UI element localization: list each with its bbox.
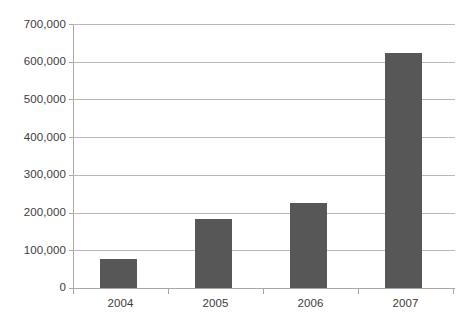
y-axis-tick-label: 300,000	[2, 169, 66, 181]
y-axis-labels: 700,000 600,000 500,000 400,000 300,000 …	[0, 0, 66, 335]
bar-2005	[195, 219, 232, 288]
bar-2007	[385, 53, 422, 288]
x-axis-tick	[168, 289, 169, 294]
y-axis-tick-label: 400,000	[2, 132, 66, 144]
bar-chart: 700,000 600,000 500,000 400,000 300,000 …	[0, 0, 471, 335]
x-axis-line	[73, 288, 455, 289]
gridline	[73, 24, 455, 25]
x-axis-tick	[73, 289, 74, 294]
plot-area	[73, 24, 455, 288]
y-axis-tick-label: 700,000	[2, 19, 66, 31]
x-axis-tick	[263, 289, 264, 294]
y-axis-tick-label: 100,000	[2, 245, 66, 257]
y-axis-tick-label: 600,000	[2, 56, 66, 68]
bar-2006	[290, 203, 327, 288]
x-axis-category-label: 2005	[168, 297, 263, 309]
y-axis-tick-label: 200,000	[2, 207, 66, 219]
bar-2004	[100, 259, 137, 288]
x-axis-category-label: 2006	[263, 297, 358, 309]
x-axis-category-label: 2004	[73, 297, 168, 309]
x-axis-category-label: 2007	[358, 297, 453, 309]
x-axis-tick	[453, 289, 454, 294]
y-axis-tick-label: 0	[2, 282, 66, 294]
x-axis-tick	[358, 289, 359, 294]
y-axis-tick-label: 500,000	[2, 94, 66, 106]
